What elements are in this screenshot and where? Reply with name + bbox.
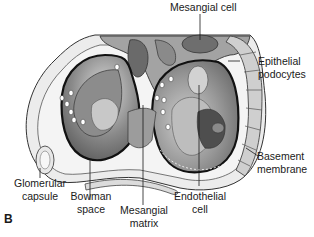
label-text: Basement bbox=[257, 150, 307, 163]
label-text: Mesangial bbox=[118, 204, 170, 217]
label-text: membrane bbox=[257, 163, 307, 176]
label-mesangial-cell: Mesangial cell bbox=[170, 1, 237, 14]
label-text: Bowman bbox=[70, 190, 112, 203]
label-basement-membrane: Basement membrane bbox=[257, 150, 307, 176]
label-text: space bbox=[70, 203, 112, 216]
label-text: podocytes bbox=[258, 68, 306, 81]
label-text: capsule bbox=[12, 190, 68, 203]
label-mesangial-matrix: Mesangial matrix bbox=[118, 204, 170, 230]
label-epithelial-podocytes: Epithelial podocytes bbox=[258, 55, 306, 81]
label-bowman-space: Bowman space bbox=[70, 190, 112, 216]
label-glomerular-capsule: Glomerular capsule bbox=[12, 177, 68, 203]
capillary-loop-left bbox=[60, 55, 139, 160]
capillary-loop-right bbox=[152, 60, 238, 172]
label-text: Mesangial cell bbox=[170, 1, 237, 13]
label-text: Endothelial bbox=[172, 190, 228, 203]
label-endothelial-cell: Endothelial cell bbox=[172, 190, 228, 216]
panel-letter: B bbox=[4, 212, 13, 226]
label-text: Epithelial bbox=[258, 55, 306, 68]
label-text: matrix bbox=[118, 217, 170, 230]
label-text: Glomerular bbox=[12, 177, 68, 190]
label-text: cell bbox=[172, 203, 228, 216]
